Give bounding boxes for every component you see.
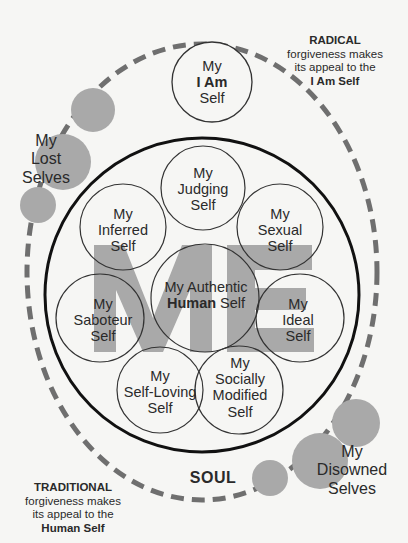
ideal-self-label: My Ideal Self	[282, 296, 313, 345]
sexual-self-label: My Sexual Self	[258, 206, 302, 255]
soul-label: SOUL	[190, 469, 236, 487]
authentic-human-self-label: My Authentic Human Self	[164, 279, 247, 311]
traditional-forgiveness-note: TRADITIONAL forgiveness makes its appeal…	[25, 481, 121, 535]
lost-selves-label: My Lost Selves	[22, 132, 70, 187]
radical-forgiveness-note: RADICAL forgiveness makes its appeal to …	[287, 34, 383, 88]
i-am-self-label: My I Am Self	[197, 58, 228, 107]
judging-self-label: My Judging Self	[178, 165, 229, 214]
self-loving-self-label: My Self-Loving Self	[124, 368, 197, 417]
inferred-self-label: My Inferred Self	[98, 206, 148, 255]
disowned-selves-label: My Disowned Selves	[317, 443, 387, 498]
saboteur-self-label: My Saboteur Self	[74, 296, 133, 345]
socially-modified-self-label: My Socially Modified Self	[213, 355, 268, 420]
